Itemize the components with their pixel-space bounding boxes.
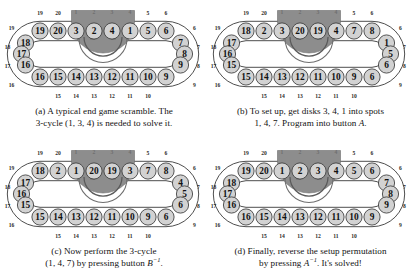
puzzle-disk[interactable]: 20 [50, 23, 66, 39]
disk-number: 2 [262, 26, 267, 36]
position-label: 17 [5, 203, 11, 209]
position-label: 20 [55, 10, 61, 16]
puzzle-disk[interactable]: 6 [364, 163, 380, 179]
puzzle-disk[interactable]: 18 [32, 163, 48, 179]
disk-number: 1 [128, 26, 133, 36]
panel-caption-b: (b) To set up, get disks 3, 4, 1 into sp… [212, 106, 409, 129]
puzzle-disk[interactable]: 12 [292, 69, 308, 85]
puzzle-disk[interactable]: 12 [310, 209, 326, 225]
puzzle-disk[interactable]: 15 [256, 209, 272, 225]
position-label: 6 [371, 150, 374, 156]
position-label: 10 [145, 233, 151, 239]
disk-number: 6 [384, 60, 389, 70]
puzzle-disk[interactable]: 1 [68, 163, 84, 179]
puzzle-disk[interactable]: 15 [223, 57, 239, 73]
puzzle-disk[interactable]: 4 [328, 23, 344, 39]
puzzle-disk[interactable]: 10 [122, 209, 138, 225]
puzzle-disk[interactable]: 11 [310, 69, 326, 85]
puzzle-disk[interactable]: 20 [256, 163, 272, 179]
puzzle-disk[interactable]: 14 [274, 209, 290, 225]
puzzle-disk[interactable]: 15 [32, 209, 48, 225]
disk-number: 14 [53, 212, 63, 222]
puzzle-disk[interactable]: 15 [17, 197, 33, 213]
position-label: 16 [215, 222, 221, 228]
position-label: 13 [91, 233, 97, 239]
position-label: 13 [91, 93, 97, 99]
disk-number: 14 [259, 72, 269, 82]
puzzle-disk[interactable]: 9 [346, 69, 362, 85]
puzzle-disk[interactable]: 13 [292, 209, 308, 225]
puzzle-disk[interactable]: 2 [256, 23, 272, 39]
puzzle-disk[interactable]: 9 [172, 57, 188, 73]
puzzle-disk[interactable]: 16 [17, 57, 33, 73]
puzzle-disk[interactable]: 3 [310, 163, 326, 179]
puzzle-disk[interactable]: 4 [104, 23, 120, 39]
puzzle-disk[interactable]: 5 [140, 23, 156, 39]
puzzle-disk[interactable]: 10 [140, 69, 156, 85]
puzzle-disk[interactable]: 13 [274, 69, 290, 85]
puzzle-disk[interactable]: 6 [378, 57, 394, 73]
puzzle-disk[interactable]: 13 [86, 69, 102, 85]
puzzle-disk[interactable]: 12 [86, 209, 102, 225]
puzzle-disk[interactable]: 14 [50, 209, 66, 225]
puzzle-disk[interactable]: 6 [172, 197, 188, 213]
puzzle-disk[interactable]: 2 [292, 163, 308, 179]
puzzle-disk[interactable]: 19 [32, 23, 48, 39]
puzzle-disk[interactable]: 20 [86, 163, 102, 179]
puzzle-disk[interactable]: 15 [50, 69, 66, 85]
position-label: 2 [93, 149, 96, 155]
puzzle-disk[interactable]: 11 [328, 209, 344, 225]
puzzle-disk[interactable]: 1 [122, 23, 138, 39]
puzzle-disk[interactable]: 6 [158, 23, 174, 39]
panel-a: 1920324156789161514131211109181716192012… [0, 0, 206, 140]
puzzle-disk[interactable]: 3 [122, 163, 138, 179]
puzzle-diagram-b: 1823201947815615141312111096171615192012… [206, 2, 413, 106]
puzzle-disk[interactable]: 19 [104, 163, 120, 179]
puzzle-disk[interactable]: 3 [274, 23, 290, 39]
puzzle-disk[interactable]: 10 [328, 69, 344, 85]
puzzle-disk[interactable]: 12 [104, 69, 120, 85]
disk-number: 16 [227, 200, 237, 210]
disk-number: 10 [331, 72, 341, 82]
puzzle-disk[interactable]: 7 [346, 23, 362, 39]
disk-number: 3 [128, 166, 133, 176]
puzzle-disk[interactable]: 3 [68, 23, 84, 39]
puzzle-disk[interactable]: 16 [238, 209, 254, 225]
puzzle-disk[interactable]: 9 [140, 209, 156, 225]
puzzle-disk[interactable]: 9 [364, 209, 380, 225]
disk-number: 10 [143, 72, 153, 82]
puzzle-disk[interactable]: 11 [104, 209, 120, 225]
puzzle-disk[interactable]: 20 [292, 23, 308, 39]
puzzle-disk[interactable]: 9 [378, 197, 394, 213]
puzzle-disk[interactable]: 9 [158, 69, 174, 85]
disk-number: 6 [164, 26, 169, 36]
puzzle-disk[interactable]: 8 [158, 163, 174, 179]
puzzle-disk[interactable]: 2 [86, 23, 102, 39]
puzzle-disk[interactable]: 4 [328, 163, 344, 179]
puzzle-disk[interactable]: 16 [223, 197, 239, 213]
disk-number: 9 [352, 72, 357, 82]
disk-number: 16 [35, 72, 45, 82]
puzzle-disk[interactable]: 15 [238, 69, 254, 85]
puzzle-disk[interactable]: 5 [346, 163, 362, 179]
puzzle-diagram-c: 1821201937845615141312111096171615192012… [0, 142, 206, 246]
puzzle-disk[interactable]: 14 [68, 69, 84, 85]
puzzle-disk[interactable]: 13 [68, 209, 84, 225]
puzzle-disk[interactable]: 10 [346, 209, 362, 225]
puzzle-disk[interactable]: 19 [238, 163, 254, 179]
puzzle-disk[interactable]: 19 [310, 23, 326, 39]
position-label: 19 [37, 150, 43, 156]
puzzle-disk[interactable]: 1 [274, 163, 290, 179]
position-label: 3 [317, 9, 320, 15]
puzzle-disk[interactable]: 8 [364, 23, 380, 39]
puzzle-disk[interactable]: 14 [256, 69, 272, 85]
panel-d: 1920123456789161514131211109181716192012… [206, 140, 413, 280]
puzzle-disk[interactable]: 16 [32, 69, 48, 85]
puzzle-disk[interactable]: 6 [364, 69, 380, 85]
puzzle-disk[interactable]: 2 [50, 163, 66, 179]
button-name: A [359, 118, 365, 128]
puzzle-disk[interactable]: 7 [140, 163, 156, 179]
puzzle-disk[interactable]: 18 [238, 23, 254, 39]
puzzle-disk[interactable]: 11 [122, 69, 138, 85]
puzzle-disk[interactable]: 6 [158, 209, 174, 225]
